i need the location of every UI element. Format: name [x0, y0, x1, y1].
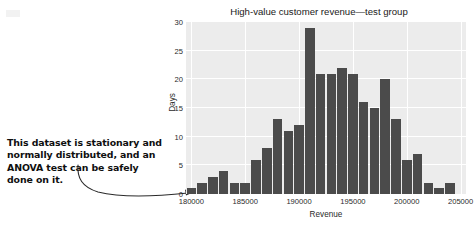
gridline-vertical [191, 22, 192, 194]
bar [219, 171, 229, 194]
x-tick-label: 185000 [233, 197, 258, 206]
bar [434, 188, 444, 194]
y-tick-label: 15 [165, 104, 183, 113]
y-tick-label: 10 [165, 132, 183, 141]
bar [187, 188, 197, 194]
gridline-vertical [461, 22, 462, 194]
bar [273, 119, 283, 194]
gridline-vertical [245, 22, 246, 194]
bar [445, 183, 455, 194]
bar [413, 154, 423, 194]
bar [230, 183, 240, 194]
bar [294, 125, 304, 194]
plot-area [186, 22, 466, 194]
x-tick-label: 180000 [179, 197, 204, 206]
bar [240, 183, 250, 194]
x-tick-label: 195000 [340, 197, 365, 206]
histogram-chart: High-value customer revenue—test group D… [164, 0, 474, 232]
bar [380, 79, 390, 194]
bar [262, 148, 272, 194]
x-tick-label: 200000 [394, 197, 419, 206]
gridline-horizontal [186, 50, 466, 51]
bar [327, 74, 337, 194]
figure-root: This dataset is stationary and normally … [0, 0, 474, 232]
bar [337, 68, 347, 194]
bar [316, 74, 326, 194]
bar [208, 177, 218, 194]
bar [305, 28, 315, 194]
bar [348, 74, 358, 194]
bar [370, 108, 380, 194]
chart-title: High-value customer revenue—test group [164, 6, 474, 17]
bar [424, 183, 434, 194]
y-tick-label: 5 [165, 161, 183, 170]
y-tick-label: 20 [165, 75, 183, 84]
y-tick-label: 25 [165, 46, 183, 55]
bar [284, 131, 294, 194]
bar [251, 160, 261, 194]
bar [197, 183, 207, 194]
x-axis-label: Revenue [186, 210, 466, 219]
bar [402, 160, 412, 194]
bar [391, 119, 401, 194]
y-tick-label: 30 [165, 18, 183, 27]
scan-artifact [6, 10, 20, 17]
bar [359, 102, 369, 194]
x-tick-label: 205000 [448, 197, 473, 206]
x-tick-label: 190000 [286, 197, 311, 206]
